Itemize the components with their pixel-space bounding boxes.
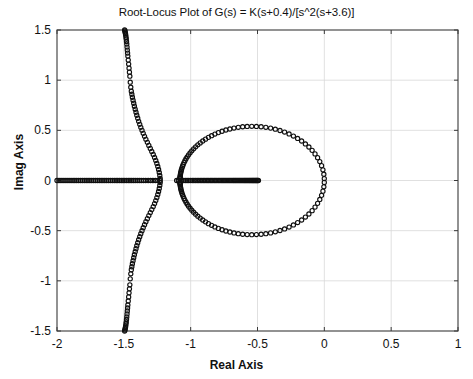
x-tick-label: -2 [52, 337, 63, 351]
y-tick-label: 1 [9, 73, 51, 87]
x-axis-label: Real Axis [0, 358, 473, 372]
x-tick-label: -1.5 [113, 337, 134, 351]
y-axis-label: Imag Axis [12, 117, 26, 207]
y-tick-label: -0.5 [9, 224, 51, 238]
root-locus-figure: Root-Locus Plot of G(s) = K(s+0.4)/[s^2(… [0, 0, 473, 379]
y-tick-label: -1.5 [9, 324, 51, 338]
x-tick-label: -1 [185, 337, 196, 351]
y-tick-label: 1.5 [9, 23, 51, 37]
x-tick-label: -0.5 [247, 337, 268, 351]
x-tick-label: 1 [455, 337, 462, 351]
plot-canvas [0, 0, 473, 379]
y-tick-label: -1 [9, 274, 51, 288]
x-tick-label: 0.5 [383, 337, 400, 351]
x-tick-label: 0 [321, 337, 328, 351]
